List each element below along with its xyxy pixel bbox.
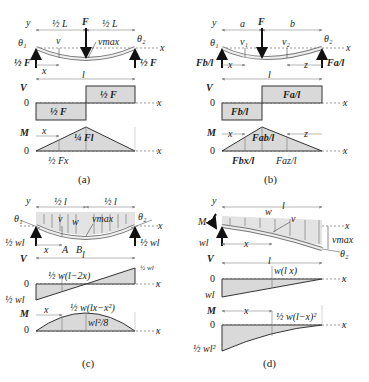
positive-shear-label: ½ F bbox=[100, 89, 117, 100]
distributed-load-region bbox=[222, 216, 322, 245]
x-dim-label: x bbox=[43, 304, 49, 315]
left-reaction-label: ½ F bbox=[14, 57, 31, 68]
z-dim-label: z bbox=[303, 128, 308, 139]
theta1-label: θ₁ bbox=[18, 37, 26, 48]
x-axis-label: x bbox=[156, 97, 162, 108]
x-dim-label: x bbox=[41, 125, 47, 136]
theta2-label: θ₂ bbox=[340, 248, 349, 259]
vmax-label: vmax bbox=[92, 213, 114, 224]
w-label: w bbox=[265, 206, 272, 217]
v-axis-label: V bbox=[20, 82, 28, 93]
y-axis-label: y bbox=[25, 17, 31, 28]
theta2-label: θ₂ bbox=[138, 211, 147, 222]
x-dim-label: x bbox=[243, 305, 249, 316]
x-axis-label: x bbox=[341, 273, 347, 284]
v1-label: v₁ bbox=[240, 36, 248, 47]
x-dim-label: x bbox=[41, 65, 47, 76]
beam-diagrams-figure: x y ½ L ½ L F θ₁ θ₂ v vmax ½ F ½ F x l bbox=[0, 0, 369, 382]
vmax-label: vmax bbox=[98, 36, 120, 47]
theta1-label: θ₁ bbox=[210, 37, 218, 48]
right-reaction-label: ½ wl bbox=[140, 237, 160, 248]
span-label: l bbox=[268, 69, 271, 80]
panel-d: x y l M wl w v vmax θ₂ x bbox=[193, 195, 354, 370]
x-axis-label: x bbox=[342, 97, 348, 108]
m-axis-label: M bbox=[206, 127, 217, 138]
x-dim-label: x bbox=[43, 244, 49, 255]
shear-expression-label: ½ w(l−2x) bbox=[48, 270, 91, 282]
caption-a: (a) bbox=[78, 173, 91, 186]
shear-diagram-a: l V 0 x ½ F ½ F bbox=[20, 69, 162, 120]
peak-moment-label: Fab/l bbox=[251, 132, 274, 143]
negative-shear-region bbox=[36, 284, 86, 300]
positive-shear-label: Fa/l bbox=[282, 89, 300, 100]
x-axis-label: x bbox=[155, 325, 161, 336]
beam-a: x y ½ L ½ L F θ₁ θ₂ v vmax ½ F ½ F x bbox=[14, 16, 165, 76]
load-label: F bbox=[257, 16, 265, 27]
z-dim-label: z bbox=[303, 59, 308, 70]
x-axis-label: x bbox=[341, 319, 347, 330]
moment-at-x-label: Fbx/l bbox=[231, 155, 254, 166]
moment-at-x-label: ½ Fx bbox=[48, 155, 69, 166]
m-axis-label: M bbox=[206, 305, 217, 316]
moment-reaction-label: M bbox=[197, 216, 207, 227]
zero-label: 0 bbox=[24, 278, 29, 289]
zero-label: 0 bbox=[210, 97, 215, 108]
v2-label: v₂ bbox=[282, 36, 290, 47]
y-axis-label: y bbox=[211, 17, 217, 28]
moment-expression-label: ½ w(l−x)² bbox=[276, 311, 317, 323]
x-axis-label: x bbox=[155, 278, 161, 289]
x-dim-label: x bbox=[243, 238, 249, 249]
zero-label: 0 bbox=[210, 273, 215, 284]
v-axis-label: V bbox=[206, 82, 214, 93]
span-label: l bbox=[82, 249, 85, 260]
w-label: w bbox=[72, 216, 79, 227]
v-axis-label: V bbox=[20, 253, 28, 264]
half-l-left-label: ½ L bbox=[52, 18, 68, 29]
beam-c: x y ½ l ½ l θ₁ θ₂ v w v bbox=[5, 195, 163, 255]
m-axis-label: M bbox=[19, 308, 30, 319]
x-dim-label: x bbox=[227, 128, 233, 139]
x-axis-label: x bbox=[156, 145, 162, 156]
beam-d: x y l M wl w v vmax θ₂ x bbox=[197, 195, 354, 259]
theta1-label: θ₁ bbox=[14, 213, 22, 224]
half-l-right-label: ½ L bbox=[102, 18, 118, 29]
zero-label: 0 bbox=[210, 145, 215, 156]
top-shear-label: ½ wl bbox=[140, 264, 154, 272]
panel-b: x y a b F θ₁ θ₂ v₁ v₂ Fb/l Fa/l x z bbox=[195, 16, 351, 186]
x-axis-label: x bbox=[345, 42, 351, 53]
b-dim-label: b bbox=[290, 18, 295, 29]
right-reaction-label: Fa/l bbox=[326, 57, 344, 68]
caption-b: (b) bbox=[264, 173, 277, 186]
moment-diagram-d: M 0 x x ½ w(l−x)² ½ wl² bbox=[193, 305, 347, 354]
moment-region bbox=[36, 313, 135, 331]
span-label: l bbox=[82, 69, 85, 80]
x-dim-label: x bbox=[227, 59, 233, 70]
left-reaction-label: ½ wl bbox=[5, 237, 25, 248]
moment-diagram-a: M 0 x x ¼ Fl ½ Fx bbox=[19, 125, 162, 166]
panel-c: x y ½ l ½ l θ₁ θ₂ v w v bbox=[5, 195, 163, 370]
x-axis-label: x bbox=[344, 220, 350, 231]
y-axis-label: y bbox=[25, 195, 31, 206]
shear-diagram-b: l V 0 x Fa/l Fb/l bbox=[206, 69, 348, 120]
shear-expression-label: w(l x) bbox=[274, 265, 298, 277]
m-axis-label: M bbox=[19, 127, 30, 138]
left-reaction-label: Fb/l bbox=[195, 57, 213, 68]
bottom-shear-label: ½ wl bbox=[5, 294, 25, 305]
zero-label: 0 bbox=[24, 145, 29, 156]
theta2-label: θ₂ bbox=[324, 33, 333, 44]
moment-diagram-c: M 0 x x ½ w(lx−x²) wl²/8 bbox=[19, 302, 161, 336]
y-axis-label: y bbox=[211, 195, 217, 206]
moment-reaction-arrow bbox=[214, 214, 217, 228]
caption-c: (c) bbox=[82, 357, 95, 370]
span-label: l bbox=[282, 200, 285, 211]
moment-at-z-label: Faz/l bbox=[275, 155, 297, 166]
caption-d: (d) bbox=[263, 357, 276, 370]
x-axis-label: x bbox=[157, 220, 163, 231]
a-dim-label: a bbox=[240, 18, 245, 29]
v-label: v bbox=[291, 213, 296, 224]
bottom-moment-label: ½ wl² bbox=[193, 343, 216, 354]
theta2-label: θ₂ bbox=[137, 33, 146, 44]
shear-diagram-d: l V 0 x w(l x) wl bbox=[205, 253, 347, 300]
x-axis-label: x bbox=[159, 42, 165, 53]
zero-label: 0 bbox=[210, 319, 215, 330]
